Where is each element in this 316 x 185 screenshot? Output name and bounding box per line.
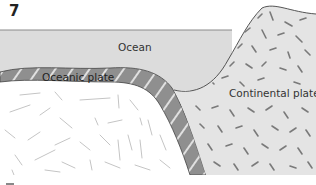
label-oceanic-plate: Oceanic plate [42, 71, 114, 83]
label-ocean: Ocean [118, 41, 152, 53]
subduction-diagram: Ocean Oceanic plate Continental plate [0, 0, 316, 185]
bottom-margin [0, 175, 316, 185]
label-continental-plate: Continental plate [229, 87, 316, 99]
next-figure-fragment [6, 183, 14, 185]
